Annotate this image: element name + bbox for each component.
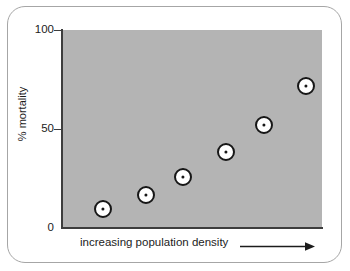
- data-point-marker: [94, 200, 112, 218]
- x-axis-title: increasing population density: [80, 236, 228, 248]
- data-point-marker: [217, 143, 235, 161]
- data-point-marker: [174, 168, 192, 186]
- data-point-marker: [137, 186, 155, 204]
- y-tick-mark-100: [54, 30, 62, 32]
- y-axis-tick-label-0: 0: [20, 222, 54, 234]
- y-axis-title: % mortality: [16, 74, 28, 154]
- y-axis-tick-label-100: 100: [20, 24, 54, 36]
- data-point-marker: [255, 116, 273, 134]
- x-axis-arrow-icon: [240, 242, 316, 251]
- data-point-marker: [297, 77, 315, 95]
- plot-area: [62, 30, 322, 228]
- y-tick-label-wrap-0: 0: [0, 222, 54, 234]
- figure-container: 100 50 0 % mortality increasing populati…: [0, 0, 350, 271]
- y-tick-mark-50: [54, 129, 62, 131]
- y-tick-label-wrap-100: 100: [0, 24, 54, 36]
- x-axis-line: [61, 227, 323, 229]
